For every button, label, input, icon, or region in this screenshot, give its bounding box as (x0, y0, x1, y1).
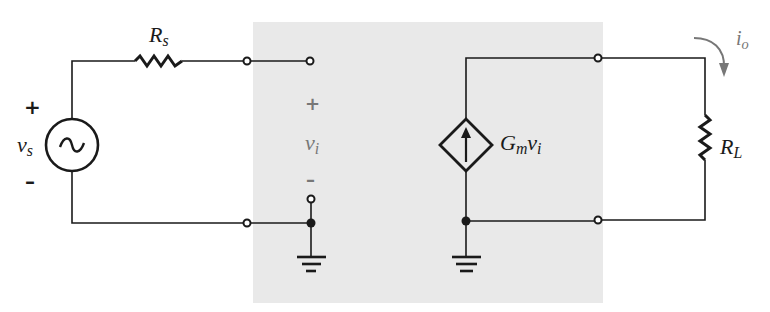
output-current-arrowhead-icon (719, 63, 729, 77)
label-rl: RL (720, 136, 742, 161)
terminal-output-bottom (595, 217, 602, 224)
wire-output-bottom (601, 160, 705, 220)
label-gm-main: G (500, 130, 516, 155)
label-rl-sub: L (733, 144, 742, 161)
junction-dot-input (307, 219, 316, 228)
label-rs: Rs (149, 24, 169, 49)
label-vs-sub: s (27, 142, 33, 159)
label-vs-main: v (17, 132, 27, 157)
resistor-rs-icon (135, 56, 182, 66)
terminal-input-minus (308, 196, 315, 203)
label-vs: vs (17, 134, 33, 159)
label-gm-sub: m (516, 140, 527, 157)
wire-output-top (601, 58, 705, 115)
wire-source-bottom (72, 172, 244, 223)
wire-source-top (72, 61, 135, 118)
source-minus-sign: – (25, 171, 35, 191)
label-vi: vi (305, 132, 319, 157)
input-plus-sign: + (305, 95, 320, 113)
terminal-source-bottom (244, 220, 251, 227)
terminal-output-top (595, 55, 602, 62)
input-minus-sign: – (306, 171, 315, 189)
label-vi-sub: i (315, 140, 319, 157)
label-gm-vi-sub: i (537, 140, 541, 157)
source-plus-sign: + (24, 97, 41, 117)
label-rl-main: R (720, 134, 733, 159)
terminal-source-top (244, 58, 251, 65)
label-rs-main: R (149, 22, 162, 47)
label-io: io (736, 28, 749, 51)
circuit-diagram (0, 0, 770, 312)
label-rs-sub: s (162, 32, 168, 49)
junction-dot-dep (462, 217, 471, 226)
label-gm-vi-main: v (527, 130, 537, 155)
label-io-sub: o (742, 36, 749, 52)
terminal-input-plus (307, 58, 314, 65)
amplifier-shaded-region (253, 22, 603, 303)
resistor-rl-icon (700, 115, 710, 160)
label-vi-main: v (305, 130, 315, 155)
label-gm-vi: Gmvi (500, 132, 542, 157)
